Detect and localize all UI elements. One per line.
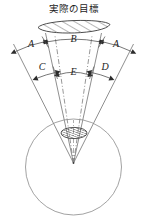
arc-c-left	[38, 73, 56, 79]
ray-inner-right	[74, 33, 102, 163]
actual-target-lens	[38, 20, 110, 33]
label-c-left: C	[39, 61, 46, 72]
label-d-right: D	[100, 61, 109, 72]
ray-inner-left	[46, 33, 74, 163]
label-b-center: B	[70, 33, 76, 44]
apparent-target-ellipse	[61, 127, 87, 138]
figure-title: 実際の目標	[49, 3, 99, 14]
label-a-right: A	[112, 38, 120, 49]
label-e-center: E	[69, 66, 76, 77]
label-a-left: A	[27, 38, 35, 49]
diagram-canvas: 実際の目標 A B A	[0, 0, 147, 220]
convergence-apex	[73, 162, 75, 164]
arc-d-right	[92, 73, 110, 79]
figure-container: 実際の目標 A B A	[0, 0, 147, 220]
